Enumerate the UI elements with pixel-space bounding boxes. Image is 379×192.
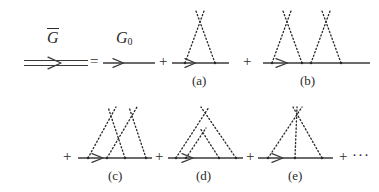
term-tag-d: (d) xyxy=(196,169,211,182)
term-tag-c: (c) xyxy=(108,169,122,182)
g-bar-glyph: G xyxy=(47,28,59,46)
g-bar-propagator xyxy=(24,57,88,69)
diagram-d xyxy=(168,107,243,162)
diagram-c xyxy=(78,107,152,162)
plus-sign-1: + xyxy=(159,54,167,69)
plus-sign-2: + xyxy=(243,54,251,69)
term-tag-e: (e) xyxy=(288,169,302,182)
plus-sign-6: + xyxy=(339,149,347,164)
diagram-e xyxy=(258,107,333,162)
term-tag-a: (a) xyxy=(192,74,206,87)
g0-propagator xyxy=(103,59,155,68)
g0-subscript: 0 xyxy=(128,36,133,47)
g0-glyph: G xyxy=(116,29,128,46)
equals-sign-1: = xyxy=(90,54,98,69)
diagram-b xyxy=(263,11,370,67)
term-tag-b: (b) xyxy=(300,74,315,87)
plus-sign-5: + xyxy=(246,149,254,164)
plus-sign-4: + xyxy=(155,149,163,164)
diagram-a xyxy=(172,11,229,67)
ellipsis-label: ··· xyxy=(352,148,370,163)
g0-label: G0 xyxy=(116,30,133,47)
g-bar-label: G xyxy=(47,28,59,46)
plus-sign-3: + xyxy=(63,149,71,164)
